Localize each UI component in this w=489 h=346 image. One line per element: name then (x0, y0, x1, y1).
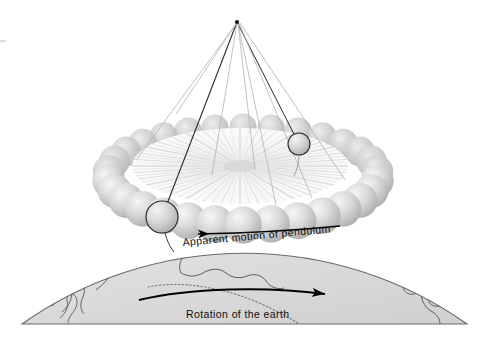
coastline-island-small-a (396, 270, 413, 281)
rotation-of-earth-label: Rotation of the earth (186, 308, 290, 320)
diagram-canvas: Rotation of the earth Apparent (0, 0, 489, 346)
pendulum-bob-near (146, 201, 178, 233)
disc-center-hub (224, 160, 256, 172)
pendulum-apex-knot (235, 20, 239, 24)
bob-near-tail (165, 233, 174, 252)
foucault-pendulum-figure: Rotation of the earth Apparent (0, 0, 489, 346)
coastline-island-greenland (392, 249, 415, 265)
pendulum-bob-far (288, 133, 310, 155)
coastline-island-banks (300, 236, 364, 254)
pendulum-string (176, 24, 236, 114)
